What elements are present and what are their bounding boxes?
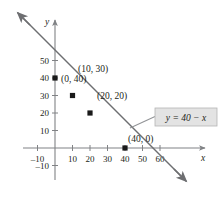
data-point-label-20-20: (20, 20) [97,91,127,102]
line-arrowhead-upper-left [18,13,31,26]
coordinate-plane: –10 10 20 30 40 50 60 50 40 30 20 10 –10… [0,0,222,200]
graph-figure: –10 10 20 30 40 50 60 50 40 30 20 10 –10… [0,0,222,200]
x-tick-label-10: 10 [68,154,78,164]
equation-annotation: y = 40 − x [155,108,217,126]
y-tick-label-40: 40 [40,73,50,83]
annotation-leader-line [130,117,155,129]
data-point-label-10-30: (10, 30) [78,64,108,75]
y-tick-label-20: 20 [40,108,50,118]
data-points [52,75,127,150]
data-point-label-0-40: (0, 40) [61,74,86,85]
y-tick-label-10: 10 [40,126,50,136]
data-point-10-30 [70,93,75,98]
line-arrowhead-lower-right [174,169,187,182]
x-axis-label: x [200,153,206,163]
x-tick-label-40: 40 [121,154,131,164]
data-point-20-20 [87,110,92,115]
data-point-label-40-0: (40, 0) [128,134,153,145]
data-point-0-40 [52,75,57,80]
data-point-labels: (0, 40) (10, 30) (20, 20) (40, 0) [61,64,153,145]
x-tick-label-30: 30 [103,154,113,164]
y-tick-label-30: 30 [40,91,50,101]
y-tick-label--10: –10 [35,161,50,171]
x-tick-label-20: 20 [86,154,96,164]
y-tick-label-50: 50 [40,56,50,66]
x-tick-label-50: 50 [138,154,148,164]
equation-label: y = 40 − x [165,113,207,123]
data-point-40-0 [122,145,127,150]
y-axis-label: y [44,17,50,27]
x-tick-labels: –10 10 20 30 40 50 60 [30,154,165,164]
